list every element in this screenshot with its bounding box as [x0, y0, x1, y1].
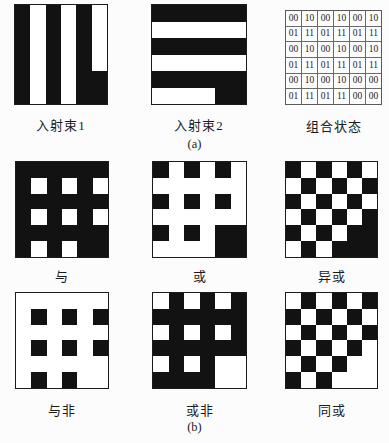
pattern-cell [184, 225, 200, 241]
pattern-cell [230, 55, 246, 72]
pattern-cell [362, 225, 377, 241]
pattern-cell [199, 38, 215, 55]
state-cell: 11 [366, 27, 381, 42]
pattern-cell [301, 325, 316, 341]
pattern-cell [286, 162, 301, 178]
pattern-cell [93, 293, 108, 309]
state-cell: 11 [334, 27, 349, 42]
or-label: 或 [152, 266, 247, 285]
panel-b-caption: (b) [0, 420, 389, 435]
pattern-cell [286, 340, 301, 356]
pattern-cell [47, 178, 62, 194]
pattern-cell [77, 178, 92, 194]
pattern-cell [286, 293, 301, 309]
pattern-cell [200, 356, 216, 372]
pattern-cell [169, 340, 185, 356]
pattern-cell [16, 309, 31, 325]
pattern-cell [15, 71, 30, 88]
pattern-cell [169, 209, 185, 225]
pattern-cell [286, 325, 301, 341]
state-cell: 10 [334, 74, 349, 89]
pattern-cell [16, 325, 31, 341]
pattern-cell [316, 309, 331, 325]
pattern-cell [31, 209, 46, 225]
state-cell: 01 [350, 58, 365, 73]
pattern-cell [93, 309, 108, 325]
state-cell: 00 [350, 42, 365, 57]
pattern-xor [285, 161, 378, 258]
pattern-cell [231, 309, 247, 325]
pattern-cell [199, 71, 215, 88]
beam1-label: 入射束1 [14, 115, 108, 134]
pattern-cell [183, 55, 199, 72]
pattern-cell [347, 241, 362, 257]
pattern-cell [77, 356, 92, 372]
figure-item-beam1: 入射束1 [14, 4, 108, 134]
pattern-cell [93, 178, 108, 194]
pattern-cell [301, 309, 316, 325]
pattern-cell [199, 22, 215, 39]
pattern-cell [169, 356, 185, 372]
state-cell: 10 [366, 42, 381, 57]
pattern-nor [152, 292, 247, 389]
pattern-cell [215, 309, 231, 325]
pattern-cell [31, 340, 46, 356]
pattern-cell [230, 22, 246, 39]
pattern-cell [152, 5, 168, 22]
pattern-cell [31, 356, 46, 372]
pattern-cell [30, 22, 45, 39]
pattern-cell [31, 178, 46, 194]
pattern-cell [62, 372, 77, 388]
pattern-cell [301, 178, 316, 194]
pattern-cell [153, 178, 169, 194]
pattern-cell [184, 162, 200, 178]
pattern-cell [200, 162, 216, 178]
pattern-cell [347, 178, 362, 194]
pattern-cell [47, 225, 62, 241]
pattern-cell [316, 194, 331, 210]
combined-state-table: 0010001000100111011101110010001000100111… [285, 10, 382, 105]
beam2-label: 入射束2 [151, 115, 247, 134]
nor-label: 或非 [152, 400, 247, 419]
pattern-or [152, 161, 247, 258]
pattern-cell [362, 372, 377, 388]
pattern-cell [332, 293, 347, 309]
pattern-cell [47, 241, 62, 257]
pattern-cell [347, 309, 362, 325]
pattern-cell [76, 55, 91, 72]
pattern-cell [200, 325, 216, 341]
pattern-cell [215, 209, 231, 225]
pattern-cell [16, 209, 31, 225]
pattern-cell [47, 340, 62, 356]
pattern-cell [153, 309, 169, 325]
state-cell: 00 [350, 11, 365, 26]
pattern-cell [184, 241, 200, 257]
figure-item-xnor: 同或 [285, 292, 378, 419]
pattern-cell [30, 88, 45, 105]
pattern-cell [47, 162, 62, 178]
pattern-cell [169, 178, 185, 194]
pattern-cell [153, 340, 169, 356]
pattern-cell [153, 225, 169, 241]
pattern-cell [93, 225, 108, 241]
pattern-cell [62, 325, 77, 341]
pattern-cell [183, 71, 199, 88]
pattern-cell [168, 38, 184, 55]
pattern-cell [61, 5, 76, 22]
pattern-cell [286, 356, 301, 372]
pattern-cell [62, 340, 77, 356]
pattern-cell [168, 22, 184, 39]
pattern-cell [77, 372, 92, 388]
pattern-cell [347, 194, 362, 210]
pattern-cell [301, 372, 316, 388]
pattern-cell [15, 38, 30, 55]
pattern-cell [184, 340, 200, 356]
state-cell: 10 [302, 11, 317, 26]
pattern-cell [231, 178, 247, 194]
pattern-cell [316, 293, 331, 309]
pattern-incident-beam2 [151, 4, 247, 105]
pattern-cell [215, 38, 231, 55]
pattern-cell [16, 372, 31, 388]
pattern-cell [200, 178, 216, 194]
pattern-cell [16, 241, 31, 257]
